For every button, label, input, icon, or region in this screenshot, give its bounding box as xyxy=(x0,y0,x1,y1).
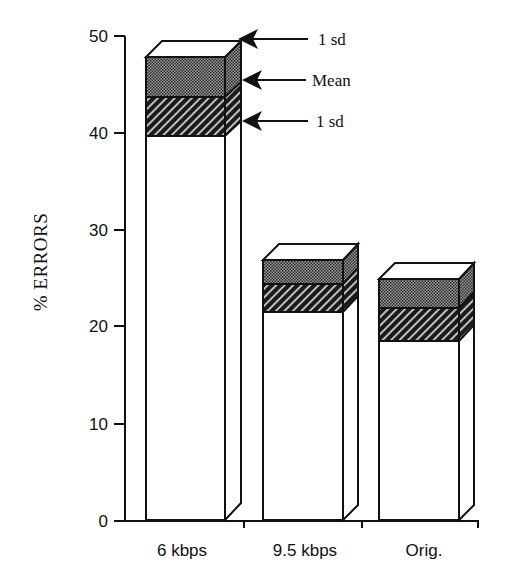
error-bar-chart: % ERRORS 50 40 30 20 10 0 xyxy=(0,0,506,588)
y-tick-0: 0 xyxy=(99,512,108,531)
annotation-lower-sd: 1 sd xyxy=(316,112,344,131)
y-tick-labels: 50 40 30 20 10 0 xyxy=(89,27,108,531)
y-tick-30: 30 xyxy=(89,221,108,240)
y-axis-label: % ERRORS xyxy=(30,213,51,312)
y-tick-20: 20 xyxy=(89,317,108,336)
bar-6-kbps xyxy=(146,41,241,520)
y-tick-10: 10 xyxy=(89,415,108,434)
arrow-mean xyxy=(242,70,306,90)
x-label-9-5-kbps: 9.5 kbps xyxy=(273,541,337,560)
bar-9-5-kbps xyxy=(263,244,358,520)
arrow-lower-sd xyxy=(242,111,308,131)
arrow-upper-sd xyxy=(238,29,308,49)
annotation-mean: Mean xyxy=(312,71,351,90)
y-tick-50: 50 xyxy=(89,27,108,46)
bar-orig xyxy=(379,263,474,520)
y-tick-40: 40 xyxy=(89,124,108,143)
annotation-upper-sd: 1 sd xyxy=(318,30,346,49)
x-label-6-kbps: 6 kbps xyxy=(157,541,207,560)
x-label-orig: Orig. xyxy=(406,541,443,560)
annotations xyxy=(238,29,308,131)
